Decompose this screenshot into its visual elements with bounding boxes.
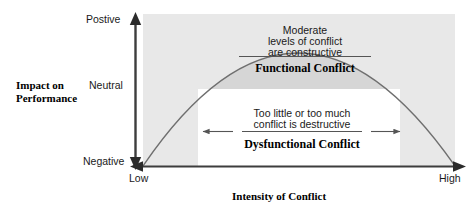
y-axis-title-line2: Performance — [16, 92, 77, 105]
y-tick-label-positive: Postive — [86, 14, 120, 25]
x-axis-arrow-right — [453, 161, 466, 172]
x-tick-label-low: Low — [129, 173, 148, 184]
functional-conflict-label: Functional Conflict — [234, 62, 376, 74]
dysfunctional-note-line2: conflict is destructive — [232, 118, 372, 131]
x-axis-title: Intensity of Conflict — [232, 190, 326, 203]
y-axis-arrow-top — [130, 12, 141, 25]
conflict-performance-diagram: Postive Neutral Negative Impact on Perfo… — [0, 0, 473, 206]
dysfunctional-conflict-label: Dysfunctional Conflict — [222, 138, 382, 150]
y-tick-label-neutral: Neutral — [89, 80, 123, 91]
y-tick-label-negative: Negative — [83, 156, 124, 167]
x-tick-label-high: High — [439, 173, 461, 184]
y-axis-title-line1: Impact on — [16, 79, 64, 92]
functional-note-line3: are constructive — [240, 46, 370, 59]
